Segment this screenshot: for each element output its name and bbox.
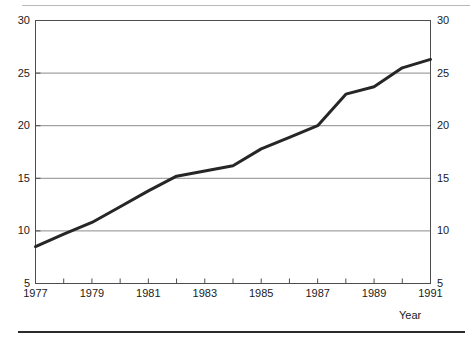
data-series-group	[36, 59, 431, 246]
x-axis-tickmarks-group	[36, 279, 431, 284]
x-axis-label-1981: 1981	[128, 288, 168, 299]
x-axis-label-1979: 1979	[72, 288, 112, 299]
y-axis-label-right-30: 30	[437, 15, 465, 26]
y-axis-label-right-15: 15	[437, 173, 465, 184]
x-axis-label-1977: 1977	[16, 288, 56, 299]
gridlines-group	[36, 73, 431, 231]
series-line-0	[36, 59, 431, 246]
x-axis-label-1991: 1991	[411, 288, 451, 299]
y-axis-label-right-10: 10	[437, 225, 465, 236]
y-axis-label-right-25: 25	[437, 68, 465, 79]
x-axis-label-1985: 1985	[241, 288, 281, 299]
bottom-divider-rule	[18, 331, 465, 333]
y-axis-label-left-30: 30	[2, 15, 30, 26]
x-axis-label-1987: 1987	[298, 288, 338, 299]
line-chart: 51015202530 51015202530 1977197919811983…	[0, 0, 473, 345]
y-axis-label-left-20: 20	[2, 120, 30, 131]
y-axis-label-right-20: 20	[437, 120, 465, 131]
x-axis-title: Year	[399, 310, 421, 321]
plot-frame-group	[36, 21, 431, 284]
y-axis-label-left-25: 25	[2, 68, 30, 79]
y-axis-label-left-10: 10	[2, 225, 30, 236]
x-axis-label-1989: 1989	[354, 288, 394, 299]
x-axis-label-1983: 1983	[185, 288, 225, 299]
plot-frame	[36, 21, 431, 284]
y-axis-label-left-15: 15	[2, 173, 30, 184]
